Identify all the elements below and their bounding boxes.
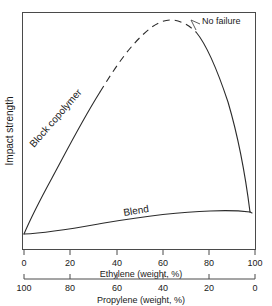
curve-block-copolymer-solid-right [196, 32, 250, 212]
propylene-tick-label-20: 20 [204, 283, 214, 293]
x-axis-title-propylene: Propylene (weight, %) [97, 295, 185, 305]
no-failure-leader-line [191, 20, 200, 30]
ethylene-tick-label-40: 40 [112, 258, 122, 268]
ethylene-tick-label-100: 100 [247, 258, 262, 268]
ethylene-tick-label-20: 20 [65, 258, 75, 268]
y-axis-title: Impact strength [4, 97, 15, 166]
series-label-block-copolymer: Block copolymer [27, 86, 84, 149]
chart-canvas: No failure Block copolymer Blend Impact … [0, 0, 272, 306]
propylene-tick-label-40: 40 [158, 283, 168, 293]
x-axis-title-ethylene: Ethylene (weight, %) [100, 269, 183, 279]
ethylene-tick-label-80: 80 [204, 258, 214, 268]
ethylene-axis-ticks [24, 250, 255, 255]
propylene-tick-label-60: 60 [112, 283, 122, 293]
propylene-tick-label-0: 0 [252, 283, 257, 293]
curve-right-endpoint-join [250, 212, 252, 213]
ethylene-tick-label-60: 60 [158, 258, 168, 268]
series-label-blend: Blend [123, 203, 150, 218]
ethylene-tick-label-0: 0 [21, 258, 26, 268]
propylene-tick-label-80: 80 [65, 283, 75, 293]
curve-block-copolymer-dashed [100, 20, 196, 92]
impact-strength-chart-figure: No failure Block copolymer Blend Impact … [0, 0, 272, 306]
propylene-tick-label-100: 100 [16, 283, 31, 293]
annotation-no-failure: No failure [202, 16, 241, 26]
